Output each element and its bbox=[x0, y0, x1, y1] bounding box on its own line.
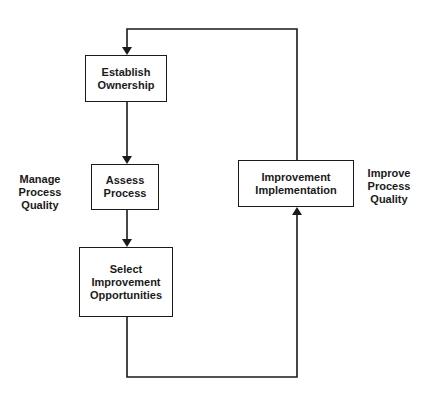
node-label-line: Assess bbox=[106, 174, 145, 187]
process-quality-diagram: Establish Ownership Assess Process Selec… bbox=[0, 0, 432, 411]
node-label-line: Process bbox=[104, 187, 147, 200]
side-label-line: Improve bbox=[356, 167, 422, 180]
arrow-into-select bbox=[122, 239, 132, 247]
label-manage-process-quality: Manage Process Quality bbox=[2, 173, 78, 212]
node-label-line: Improvement bbox=[261, 171, 330, 184]
node-select-improvement-opportunities: Select Improvement Opportunities bbox=[79, 247, 173, 317]
node-label-line: Implementation bbox=[255, 184, 336, 197]
node-improvement-implementation: Improvement Implementation bbox=[238, 160, 354, 207]
side-label-line: Process bbox=[356, 180, 422, 193]
arrow-into-implementation bbox=[292, 207, 302, 215]
label-improve-process-quality: Improve Process Quality bbox=[356, 167, 422, 206]
side-label-line: Process bbox=[2, 186, 78, 199]
node-label-line: Improvement bbox=[91, 276, 160, 289]
node-label-line: Opportunities bbox=[90, 289, 162, 302]
arrow-into-establish bbox=[122, 47, 132, 55]
side-label-line: Quality bbox=[2, 199, 78, 212]
node-label-line: Select bbox=[110, 263, 142, 276]
arrow-into-assess bbox=[122, 156, 132, 164]
side-label-line: Manage bbox=[2, 173, 78, 186]
node-label-line: Establish bbox=[102, 66, 151, 79]
side-label-line: Quality bbox=[356, 193, 422, 206]
node-establish-ownership: Establish Ownership bbox=[85, 55, 167, 102]
node-assess-process: Assess Process bbox=[91, 164, 159, 210]
node-label-line: Ownership bbox=[98, 79, 155, 92]
